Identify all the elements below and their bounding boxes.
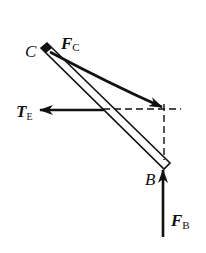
point-label-b: B — [145, 170, 156, 189]
force-arrow-fc — [50, 52, 162, 107]
bar-cb — [41, 43, 170, 169]
free-body-diagram: C FC TE B FB — [0, 0, 206, 253]
force-label-fc: FC — [60, 34, 80, 53]
force-label-te: TE — [16, 102, 33, 122]
force-label-fb: FB — [170, 211, 190, 231]
point-label-c: C — [25, 42, 37, 61]
